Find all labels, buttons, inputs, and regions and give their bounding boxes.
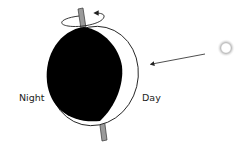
- sun-icon: [217, 39, 235, 57]
- earth: [39, 17, 149, 135]
- day-label: Day: [142, 92, 161, 103]
- earth-day-night-diagram: [0, 0, 246, 144]
- night-label: Night: [19, 92, 45, 103]
- sunlight-arrow-icon: [152, 54, 205, 64]
